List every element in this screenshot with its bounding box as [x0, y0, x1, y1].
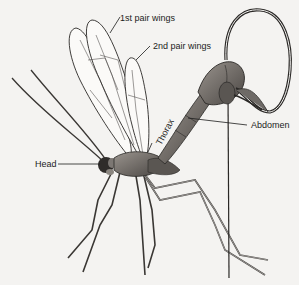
label-first-pair-wings: 1st pair wings: [120, 13, 175, 23]
legs: [68, 168, 268, 275]
insect-illustration: [0, 0, 299, 285]
abdomen: [158, 62, 244, 164]
label-head: Head: [35, 159, 57, 169]
ovipositor: [228, 92, 229, 278]
label-second-pair-wings: 2nd pair wings: [153, 41, 211, 51]
insect-diagram: 1st pair wings 2nd pair wings Thorax Abd…: [0, 0, 299, 285]
first-wings-leader: [110, 17, 120, 33]
label-abdomen: Abdomen: [251, 120, 290, 130]
head: [98, 157, 116, 175]
second-wings-leader: [136, 46, 150, 60]
